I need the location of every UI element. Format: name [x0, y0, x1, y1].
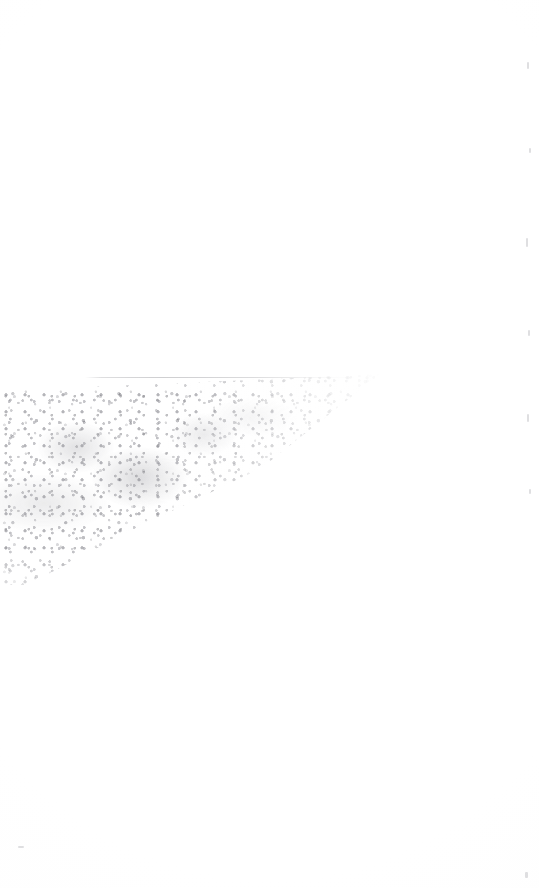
faint-horizontal-rule: [85, 377, 360, 378]
scanner-speck: [527, 414, 529, 422]
smudge-fade-layer: [0, 370, 380, 585]
page-description: Near-blank scanned page: faint horizonta…: [0, 0, 1, 1]
scanner-speck: [525, 872, 528, 878]
scanner-speck: [528, 330, 530, 336]
smudge-edge-feather: [0, 370, 380, 585]
scanner-speck: [529, 148, 531, 153]
scanner-speck: [526, 238, 528, 247]
granular-wedge-smudge: [0, 370, 380, 585]
scanner-speck: [529, 489, 531, 494]
scanner-speck: [527, 62, 529, 69]
paper-background: [0, 0, 539, 888]
smudge-grain-layer-fine: [0, 370, 380, 585]
scanned-page: Near-blank scanned page: faint horizonta…: [0, 0, 539, 888]
scanner-speck: [18, 846, 24, 848]
smudge-cloud-layer: [0, 370, 380, 585]
smudge-grain-layer-coarse: [0, 370, 380, 585]
